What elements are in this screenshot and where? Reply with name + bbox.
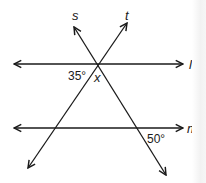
label-t: t	[125, 8, 130, 23]
angle-35-label: 35°	[68, 69, 86, 83]
line-s	[74, 27, 166, 175]
diagram-canvas: s t l m 35° x 50°	[0, 0, 206, 183]
angle-x-label: x	[93, 70, 101, 85]
parallel-lines-diagram: s t l m 35° x 50°	[0, 0, 206, 183]
scan-edge-shading	[192, 0, 206, 183]
angle-50-label: 50°	[147, 132, 165, 146]
label-s: s	[72, 8, 79, 23]
line-t	[28, 23, 127, 168]
